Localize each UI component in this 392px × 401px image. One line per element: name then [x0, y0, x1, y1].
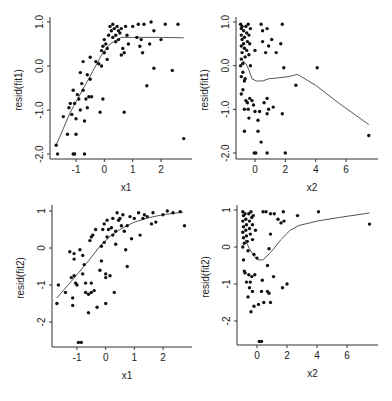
x-tick-label: 0 [252, 164, 258, 175]
data-point [97, 62, 100, 65]
data-point [107, 228, 110, 231]
data-point [101, 97, 104, 100]
data-point [259, 23, 262, 26]
y-tick-label: -2.0 [220, 144, 231, 162]
data-point [73, 102, 76, 105]
data-point [253, 273, 256, 276]
data-point [81, 60, 84, 63]
y-tick-label: -1 [36, 280, 47, 289]
data-point [110, 29, 113, 32]
data-point [176, 23, 179, 26]
data-point [254, 151, 257, 154]
x-tick-label: 6 [343, 164, 349, 175]
data-point [91, 233, 94, 236]
data-point [133, 217, 136, 220]
data-point [282, 210, 285, 213]
x-axis-label: x2 [307, 368, 318, 379]
data-point [265, 112, 268, 115]
data-point [78, 248, 81, 251]
data-point [284, 151, 287, 154]
data-point [141, 51, 144, 54]
data-point [100, 49, 103, 52]
data-point [269, 212, 272, 215]
data-point [243, 77, 246, 80]
data-point [84, 97, 87, 100]
data-point [279, 42, 282, 45]
x-tick-label: 4 [313, 164, 319, 175]
data-point [243, 130, 246, 133]
data-point [249, 210, 252, 213]
data-point [55, 144, 58, 147]
data-point [55, 302, 58, 305]
x-tick-label: 1 [130, 164, 136, 175]
data-point [296, 214, 299, 217]
data-point [90, 95, 93, 98]
data-point [87, 311, 90, 314]
data-point [113, 291, 116, 294]
data-point [135, 36, 138, 39]
data-point [241, 71, 244, 74]
data-point [111, 23, 114, 26]
data-point [104, 276, 107, 279]
data-point [269, 301, 272, 304]
data-point [316, 66, 319, 69]
data-point [72, 257, 75, 260]
y-axis-label: resid(fit1) [13, 69, 24, 111]
data-point [121, 213, 124, 216]
panel-p4: 0246-2-101x2resid(fit2) [200, 205, 378, 379]
data-point [243, 55, 246, 58]
data-point [252, 103, 255, 106]
y-axis-label: resid(fit2) [15, 257, 26, 299]
data-point [171, 69, 174, 72]
residual-plots-figure: -1012-2.0-1.00.01.0x1resid(fit1)0246-2.0… [0, 0, 392, 401]
data-point [240, 51, 243, 54]
data-point [152, 67, 155, 70]
data-point [275, 51, 278, 54]
x-tick-label: 0 [103, 352, 109, 363]
data-point [89, 56, 92, 59]
data-point [281, 112, 284, 115]
data-point [84, 281, 87, 284]
data-point [123, 230, 126, 233]
data-point [267, 108, 270, 111]
data-point [279, 221, 282, 224]
data-point [120, 53, 123, 56]
y-axis-label: resid(fit1) [199, 69, 210, 111]
y-tick-label: -1 [221, 279, 232, 288]
data-point [266, 264, 269, 267]
data-point [84, 291, 87, 294]
data-point [281, 286, 284, 289]
data-point [253, 110, 256, 113]
data-point [262, 301, 265, 304]
data-point [107, 34, 110, 37]
data-point [83, 119, 86, 122]
data-point [80, 82, 83, 85]
data-point [94, 228, 97, 231]
data-point [248, 286, 251, 289]
data-point [239, 64, 242, 67]
data-point [103, 51, 106, 54]
data-point [241, 245, 244, 248]
data-point [120, 224, 123, 227]
data-point [317, 210, 320, 213]
x-tick-label: 0 [254, 350, 260, 361]
data-point [131, 25, 134, 28]
data-point [86, 73, 89, 76]
y-tick-label: 1.0 [220, 15, 231, 29]
data-point [244, 229, 247, 232]
data-point [282, 66, 285, 69]
data-point [117, 38, 120, 41]
data-point [240, 75, 243, 78]
data-point [83, 263, 86, 266]
data-point [281, 23, 284, 26]
data-point [248, 227, 251, 230]
data-point [241, 219, 244, 222]
data-point [171, 211, 174, 214]
data-point [264, 51, 267, 54]
data-point [103, 38, 106, 41]
data-point [245, 49, 248, 52]
data-point [106, 47, 109, 50]
data-point [242, 42, 245, 45]
data-point [255, 256, 258, 259]
data-point [261, 279, 264, 282]
